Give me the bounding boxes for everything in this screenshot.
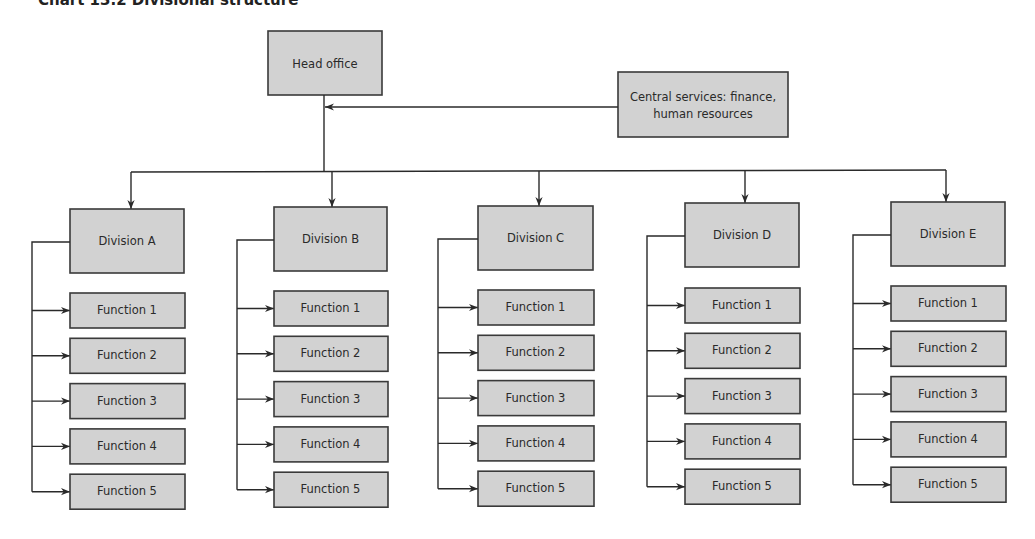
central-services-label-line2: human resources xyxy=(653,107,753,121)
function-label: Function 2 xyxy=(506,345,566,359)
function-node: Function 4 xyxy=(891,422,1006,457)
function-node: Function 2 xyxy=(685,333,800,368)
function-node: Function 3 xyxy=(685,379,800,414)
function-node: Function 2 xyxy=(891,331,1006,366)
division-node-b: Division B xyxy=(274,207,387,271)
function-label: Function 5 xyxy=(506,481,566,495)
division-column-d: Division DFunction 1Function 2Function 3… xyxy=(647,170,800,504)
function-label: Function 5 xyxy=(918,477,978,491)
function-label: Function 3 xyxy=(918,387,978,401)
function-label: Function 2 xyxy=(918,341,978,355)
function-node: Function 2 xyxy=(70,338,185,373)
division-column-a: Division AFunction 1Function 2Function 3… xyxy=(32,172,185,509)
division-node-d: Division D xyxy=(685,203,799,267)
function-node: Function 3 xyxy=(891,377,1006,412)
function-connector xyxy=(853,235,891,485)
function-node: Function 1 xyxy=(685,288,800,323)
function-node: Function 3 xyxy=(70,384,185,419)
division-column-e: Division EFunction 1Function 2Function 3… xyxy=(853,170,1006,502)
function-label: Function 1 xyxy=(918,296,978,310)
central-services-node: Central services: finance, human resourc… xyxy=(618,72,788,137)
division-label: Division B xyxy=(302,232,359,246)
function-connector xyxy=(438,239,478,489)
function-label: Function 1 xyxy=(712,298,772,312)
function-label: Function 2 xyxy=(301,346,361,360)
division-node-c: Division C xyxy=(478,206,593,270)
function-node: Function 4 xyxy=(685,424,800,459)
function-label: Function 4 xyxy=(712,434,772,448)
function-label: Function 3 xyxy=(97,394,157,408)
division-column-b: Division BFunction 1Function 2Function 3… xyxy=(237,172,388,507)
function-label: Function 2 xyxy=(712,343,772,357)
function-node: Function 4 xyxy=(70,429,185,464)
function-node: Function 1 xyxy=(478,290,594,325)
function-label: Function 4 xyxy=(301,437,361,451)
function-label: Function 4 xyxy=(918,432,978,446)
division-label: Division D xyxy=(713,228,771,242)
function-node: Function 4 xyxy=(478,426,594,461)
function-node: Function 1 xyxy=(891,286,1006,321)
function-node: Function 5 xyxy=(478,471,594,506)
function-node: Function 5 xyxy=(685,469,800,504)
function-connector xyxy=(237,240,274,490)
function-label: Function 5 xyxy=(712,479,772,493)
org-chart-diagram: Head office Central services: finance, h… xyxy=(0,0,1035,539)
function-node: Function 5 xyxy=(891,467,1006,502)
function-label: Function 3 xyxy=(506,391,566,405)
central-services-label-line1: Central services: finance, xyxy=(630,90,776,104)
head-office-label: Head office xyxy=(292,57,357,71)
function-connector xyxy=(647,236,685,487)
division-node-a: Division A xyxy=(70,209,184,273)
function-node: Function 4 xyxy=(274,427,388,462)
function-node: Function 5 xyxy=(70,474,185,509)
function-node: Function 1 xyxy=(274,291,388,326)
division-column-c: Division CFunction 1Function 2Function 3… xyxy=(438,171,594,506)
division-label: Division A xyxy=(98,234,155,248)
function-label: Function 1 xyxy=(506,300,566,314)
division-columns: Division AFunction 1Function 2Function 3… xyxy=(32,170,1006,509)
function-label: Function 3 xyxy=(712,389,772,403)
function-label: Function 1 xyxy=(301,301,361,315)
function-label: Function 1 xyxy=(97,303,157,317)
function-node: Function 3 xyxy=(478,381,594,416)
function-node: Function 1 xyxy=(70,293,185,328)
head-office-node: Head office xyxy=(268,31,382,95)
function-node: Function 2 xyxy=(274,336,388,371)
function-label: Function 4 xyxy=(97,439,157,453)
division-label: Division C xyxy=(507,231,564,245)
function-label: Function 4 xyxy=(506,436,566,450)
division-node-e: Division E xyxy=(891,202,1005,266)
function-connector xyxy=(32,242,70,492)
function-label: Function 5 xyxy=(97,484,157,498)
division-label: Division E xyxy=(920,227,976,241)
function-label: Function 3 xyxy=(301,392,361,406)
function-node: Function 2 xyxy=(478,335,594,370)
function-node: Function 3 xyxy=(274,382,388,417)
function-label: Function 5 xyxy=(301,482,361,496)
function-label: Function 2 xyxy=(97,348,157,362)
function-node: Function 5 xyxy=(274,472,388,507)
